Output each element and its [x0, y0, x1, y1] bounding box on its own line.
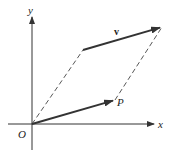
- dashed-O-to-v-tail: [32, 50, 83, 124]
- vector-v-label: v: [114, 26, 119, 37]
- diagram-canvas: O x y P v: [0, 0, 175, 155]
- vector-v: [83, 28, 160, 50]
- point-P-label: P: [116, 96, 124, 108]
- position-vector-OP: [32, 101, 113, 124]
- vector-diagram: O x y P v: [0, 0, 175, 155]
- x-axis-label: x: [157, 118, 163, 130]
- y-axis-label: y: [27, 4, 33, 16]
- origin-label: O: [18, 128, 26, 140]
